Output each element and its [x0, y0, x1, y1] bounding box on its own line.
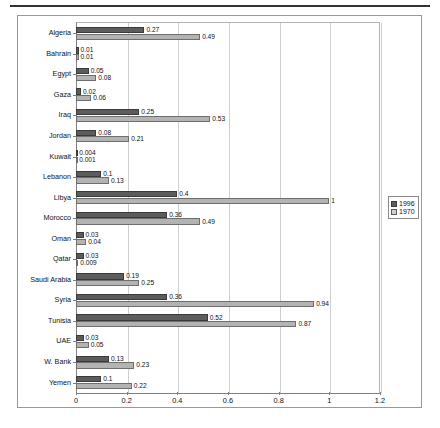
x-tick-mark — [177, 392, 178, 395]
bar-value-label: 1 — [331, 198, 335, 205]
bar-group: 0.0040.001 — [76, 146, 380, 167]
x-tick-label: 0 — [74, 396, 78, 405]
bar-row: Kuwait0.0040.001 — [76, 146, 380, 167]
bar-row: W. Bank0.130.23 — [76, 352, 380, 373]
bar-row: Syria0.360.94 — [76, 290, 380, 311]
bar-value-label: 0.1 — [103, 376, 112, 383]
category-label: Algeria — [49, 30, 71, 37]
bar-1996 — [76, 88, 81, 94]
bar-row: Egypt0.050.08 — [76, 64, 380, 85]
bar-row: Lebanon0.10.13 — [76, 167, 380, 188]
bar-1996 — [76, 273, 124, 279]
bar-group: 0.190.25 — [76, 270, 380, 291]
bar-value-label: 0.4 — [179, 191, 188, 198]
chart-page: Algeria0.270.49Bahrain0.010.01Egypt0.050… — [0, 0, 440, 428]
bar-1996 — [76, 335, 84, 341]
bar-1996 — [76, 294, 167, 300]
bar-row: Gaza0.020.06 — [76, 85, 380, 106]
x-tick-mark — [380, 392, 381, 395]
bar-group: 0.020.06 — [76, 85, 380, 106]
bar-group: 0.270.49 — [76, 23, 380, 44]
bar-1996 — [76, 356, 109, 362]
bar-value-label: 0.19 — [126, 273, 139, 280]
category-label: Oman — [51, 235, 71, 242]
legend-item: 1970 — [391, 208, 415, 215]
category-label: Libya — [54, 194, 71, 201]
category-label: Saudi Arabia — [30, 276, 71, 283]
bar-1996 — [76, 212, 167, 218]
bar-row: Jordan0.080.21 — [76, 126, 380, 147]
legend-swatch-icon — [391, 209, 397, 215]
bar-row: Saudi Arabia0.190.25 — [76, 270, 380, 291]
bar-1970 — [76, 157, 78, 163]
bar-1970 — [76, 136, 129, 142]
bar-1970 — [76, 260, 78, 266]
bar-value-label: 0.001 — [79, 157, 96, 164]
bar-1996 — [76, 191, 177, 197]
bar-rows: Algeria0.270.49Bahrain0.010.01Egypt0.050… — [76, 23, 380, 393]
bar-1970 — [76, 280, 139, 286]
legend-label: 1970 — [399, 208, 415, 215]
category-label: Qatar — [53, 256, 71, 263]
bar-value-label: 0.05 — [91, 342, 104, 349]
bar-1970 — [76, 218, 200, 224]
x-tick-label: 1 — [327, 396, 331, 405]
category-label: Gaza — [54, 91, 71, 98]
category-label: Bahrain — [46, 50, 71, 57]
bar-group: 0.050.08 — [76, 64, 380, 85]
bar-1970 — [76, 116, 210, 122]
bar-row: Libya0.41 — [76, 187, 380, 208]
bar-group: 0.130.23 — [76, 352, 380, 373]
legend-label: 1996 — [399, 200, 415, 207]
bar-value-label: 0.009 — [80, 259, 97, 266]
bar-row: Yemen0.10.22 — [76, 372, 380, 393]
bar-group: 0.010.01 — [76, 44, 380, 65]
category-label: Lebanon — [43, 173, 71, 180]
top-divider-rule — [10, 5, 430, 7]
bar-1970 — [76, 383, 132, 389]
bar-group: 0.030.05 — [76, 331, 380, 352]
category-label: Morocco — [43, 215, 71, 222]
bar-row: Algeria0.270.49 — [76, 23, 380, 44]
bar-group: 0.080.21 — [76, 126, 380, 147]
bar-1996 — [76, 130, 96, 136]
bar-value-label: 0.08 — [98, 129, 111, 136]
category-label: Jordan — [49, 132, 71, 139]
bar-1970 — [76, 177, 109, 183]
bar-value-label: 0.87 — [298, 321, 311, 328]
bar-group: 0.10.13 — [76, 167, 380, 188]
category-label: Yemen — [49, 379, 71, 386]
bar-1996 — [76, 68, 89, 74]
bar-value-label: 0.27 — [146, 27, 159, 34]
bar-value-label: 0.13 — [111, 355, 124, 362]
bar-value-label: 0.25 — [141, 109, 154, 116]
bar-row: Tunisia0.520.87 — [76, 311, 380, 332]
bar-1996 — [76, 232, 84, 238]
bar-row: Oman0.030.04 — [76, 228, 380, 249]
bar-1970 — [76, 362, 134, 368]
category-label: Kuwait — [49, 153, 71, 160]
gridline — [381, 23, 382, 393]
bar-1970 — [76, 34, 200, 40]
bar-value-label: 0.23 — [136, 362, 149, 369]
bar-1970 — [76, 95, 91, 101]
x-tick-label: 1.2 — [375, 396, 385, 405]
bar-1996 — [76, 314, 208, 320]
bar-value-label: 0.25 — [141, 280, 154, 287]
legend-item: 1996 — [391, 200, 415, 207]
bar-group: 0.10.22 — [76, 372, 380, 393]
bar-value-label: 0.06 — [93, 95, 106, 102]
bar-value-label: 0.22 — [134, 383, 147, 390]
category-label: Egypt — [53, 71, 71, 78]
bar-value-label: 0.08 — [98, 74, 111, 81]
x-tick-label: 0.6 — [223, 396, 233, 405]
bar-1970 — [76, 342, 89, 348]
x-tick-mark — [127, 392, 128, 395]
x-tick-mark — [228, 392, 229, 395]
bar-group: 0.030.009 — [76, 249, 380, 270]
chart-legend: 19961970 — [388, 196, 419, 219]
bar-group: 0.250.53 — [76, 105, 380, 126]
bar-value-label: 0.49 — [202, 218, 215, 225]
x-tick-mark — [279, 392, 280, 395]
x-tick-label: 0.4 — [172, 396, 182, 405]
